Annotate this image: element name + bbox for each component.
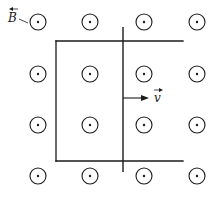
field-symbol-dot xyxy=(37,73,39,75)
magnetic-field-diagram: v B xyxy=(0,0,221,198)
field-out-of-page-icon xyxy=(189,14,205,30)
field-symbol-dot xyxy=(143,73,145,75)
field-out-of-page-icon xyxy=(82,66,98,82)
field-symbol-dot xyxy=(196,124,198,126)
field-symbol-dot xyxy=(143,124,145,126)
field-symbol-dot xyxy=(196,21,198,23)
field-out-of-page-icon xyxy=(136,14,152,30)
field-out-of-page-icon xyxy=(82,168,98,184)
field-symbol-dot xyxy=(89,73,91,75)
field-symbol-dot xyxy=(143,175,145,177)
field-symbol-dot xyxy=(89,124,91,126)
field-symbol: B xyxy=(7,11,17,25)
rails xyxy=(56,41,183,161)
field-out-of-page-icon xyxy=(30,168,46,184)
field-out-of-page-icon xyxy=(82,14,98,30)
field-out-of-page-icon xyxy=(136,117,152,133)
field-out-of-page-icon xyxy=(30,14,46,30)
field-symbol-dot xyxy=(37,124,39,126)
field-out-of-page-icon xyxy=(136,168,152,184)
velocity-arrowhead-icon xyxy=(141,95,149,101)
field-symbol-dot xyxy=(37,21,39,23)
field-out-of-page-icon xyxy=(189,117,205,133)
field-label: B xyxy=(7,7,28,25)
field-symbol-dot xyxy=(37,175,39,177)
field-symbol-dot xyxy=(196,73,198,75)
field-out-of-page-icon xyxy=(82,117,98,133)
velocity-label: v xyxy=(154,88,163,105)
field-out-of-page-icon xyxy=(189,66,205,82)
field-leader-line xyxy=(19,19,28,23)
field-symbol-dot xyxy=(196,175,198,177)
field-symbol-dot xyxy=(89,21,91,23)
field-out-of-page-icon xyxy=(189,168,205,184)
velocity-arrow xyxy=(123,95,149,101)
field-out-of-page-icon xyxy=(30,117,46,133)
velocity-symbol: v xyxy=(154,91,161,105)
field-symbol-dot xyxy=(89,175,91,177)
field-out-of-page-icon xyxy=(30,66,46,82)
field-out-of-page-icon xyxy=(136,66,152,82)
field-symbol-dot xyxy=(143,21,145,23)
